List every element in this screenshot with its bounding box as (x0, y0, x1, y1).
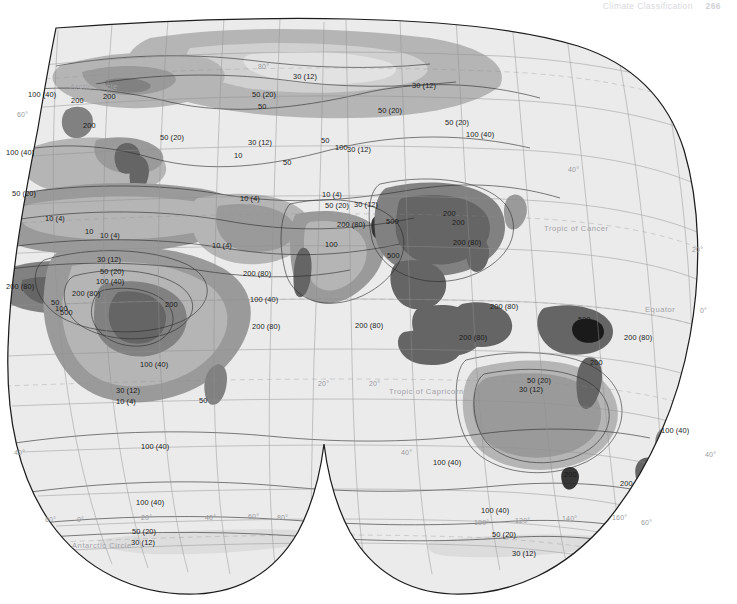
map-graphic (0, 8, 737, 596)
page-root: Climate Classification 266 (0, 0, 737, 604)
world-precipitation-map: Arctic CircleTropic of CancerEquatorTrop… (0, 8, 737, 596)
